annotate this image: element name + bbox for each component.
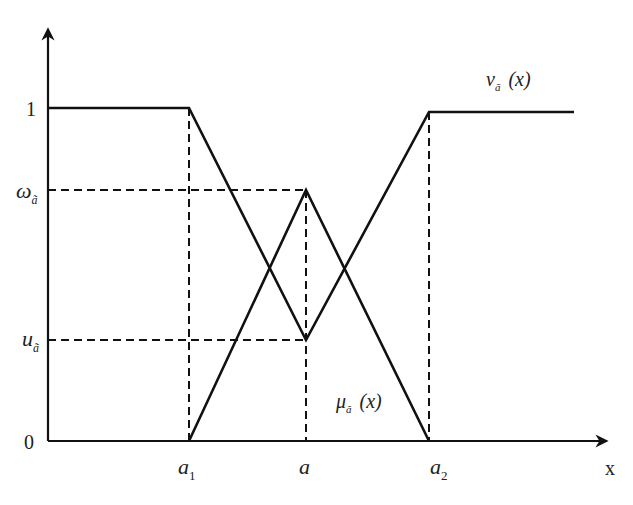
x-tick-a: a <box>299 454 310 479</box>
non-membership-label: νã(x) <box>486 68 531 93</box>
x-tick-a1: a1 <box>178 454 196 483</box>
omega-label: ωã <box>16 178 38 207</box>
fuzzy-number-diagram: 1 0 ωã uã a1 a a2 x μã(x) νã(x) <box>0 0 633 505</box>
y-tick-0: 0 <box>24 431 34 453</box>
u-label: uã <box>22 326 39 355</box>
membership-curve <box>189 190 429 441</box>
x-axis-label: x <box>605 457 615 479</box>
non-membership-curve <box>48 108 574 340</box>
x-tick-a2: a2 <box>430 454 448 483</box>
y-tick-1: 1 <box>26 98 36 120</box>
membership-label: μã(x) <box>335 390 382 415</box>
